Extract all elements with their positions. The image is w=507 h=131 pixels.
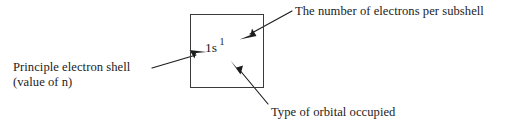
callout-label-electron-count: The number of electrons per subshell — [295, 4, 484, 19]
callout-label-principal-shell-line1: Principle electron shell — [13, 60, 130, 74]
orbital-notation-box — [190, 14, 264, 88]
electron-configuration-diagram: 1s1 The number of electrons per subshell… — [0, 0, 507, 131]
orbital-notation-text: 1s1 — [205, 38, 222, 54]
callout-label-principal-shell-line2: (value of n) — [13, 75, 130, 90]
orbital-notation-base: 1s — [205, 40, 217, 55]
callout-label-orbital-type: Type of orbital occupied — [271, 105, 395, 120]
callout-label-principal-shell: Principle electron shell (value of n) — [13, 60, 130, 90]
orbital-notation-superscript: 1 — [220, 36, 225, 47]
